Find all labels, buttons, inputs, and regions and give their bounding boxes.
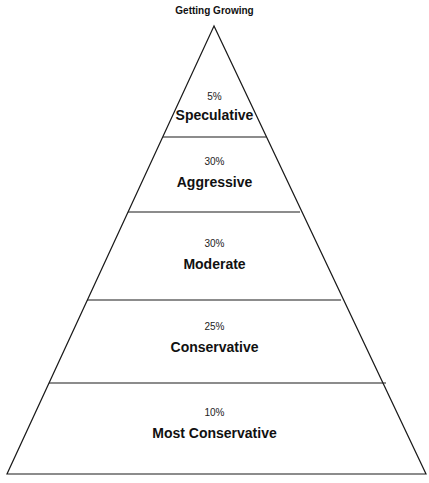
tier-speculative: 5% Speculative <box>0 91 429 123</box>
tier-label: Conservative <box>0 339 429 355</box>
tier-percent: 30% <box>0 238 429 249</box>
tier-label: Aggressive <box>0 174 429 190</box>
tier-label: Moderate <box>0 256 429 272</box>
tier-conservative: 25% Conservative <box>0 321 429 355</box>
tier-percent: 25% <box>0 321 429 332</box>
tier-percent: 5% <box>0 91 429 102</box>
tier-label: Most Conservative <box>0 425 429 441</box>
tier-moderate: 30% Moderate <box>0 238 429 272</box>
tier-aggressive: 30% Aggressive <box>0 156 429 190</box>
tier-percent: 10% <box>0 407 429 418</box>
tier-percent: 30% <box>0 156 429 167</box>
tier-label: Speculative <box>0 107 429 123</box>
tier-most-conservative: 10% Most Conservative <box>0 407 429 441</box>
